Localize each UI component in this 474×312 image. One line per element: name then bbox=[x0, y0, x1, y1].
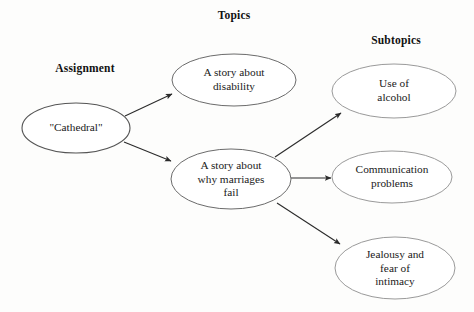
node-ellipse-communication-problems[interactable] bbox=[332, 151, 452, 203]
node-ellipse-use-of-alcohol[interactable] bbox=[332, 64, 456, 118]
node-ellipse-cathedral[interactable] bbox=[22, 103, 130, 153]
edge-marriages-to-jealousy bbox=[277, 203, 340, 244]
edge-marriages-to-alcohol bbox=[275, 113, 341, 157]
edge-cathedral-to-marriages bbox=[124, 142, 171, 161]
diagram-canvas: Assignment Topics Subtopics "Cathedral" … bbox=[0, 0, 474, 312]
column-header-topics: Topics bbox=[218, 9, 251, 21]
column-header-assignment: Assignment bbox=[55, 62, 115, 74]
node-ellipse-jealousy-intimacy[interactable] bbox=[335, 237, 455, 299]
node-ellipse-story-marriages[interactable] bbox=[171, 149, 291, 209]
node-ellipse-story-disability[interactable] bbox=[172, 54, 296, 106]
column-header-subtopics: Subtopics bbox=[371, 34, 421, 46]
nodes-layer bbox=[22, 54, 456, 299]
edge-cathedral-to-disability bbox=[125, 94, 172, 116]
concept-map-svg bbox=[0, 0, 474, 312]
